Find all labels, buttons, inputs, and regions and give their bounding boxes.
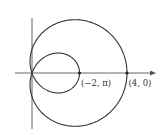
point-outer-dot (125, 71, 128, 74)
point-inner-dot (78, 71, 81, 74)
axis-arrow-icon (150, 71, 156, 76)
point-outer-label: (4, 0) (129, 78, 152, 88)
point-inner-label: (−2, π) (81, 78, 111, 88)
limacon-diagram: (−2, π) (4, 0) (0, 0, 166, 135)
